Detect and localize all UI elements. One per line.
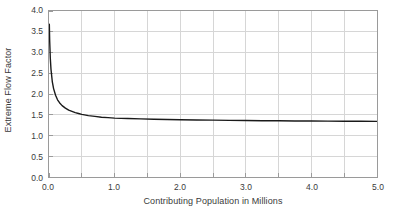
- x-tick-label: 0.0: [42, 182, 54, 192]
- x-tick-label: 5.0: [372, 182, 384, 192]
- x-tick-label: 4.0: [306, 182, 318, 192]
- x-tick-label: 2.0: [174, 182, 186, 192]
- x-axis-tick-labels: 0.01.02.03.04.05.0: [0, 0, 394, 214]
- x-axis-title-text: Contributing Population in Millions: [143, 196, 282, 206]
- x-axis-title: Contributing Population in Millions: [48, 196, 378, 206]
- x-tick-label: 1.0: [108, 182, 120, 192]
- chart-figure: Extreme Flow Factor 0.00.51.01.52.02.53.…: [0, 0, 394, 214]
- x-tick-label: 3.0: [240, 182, 252, 192]
